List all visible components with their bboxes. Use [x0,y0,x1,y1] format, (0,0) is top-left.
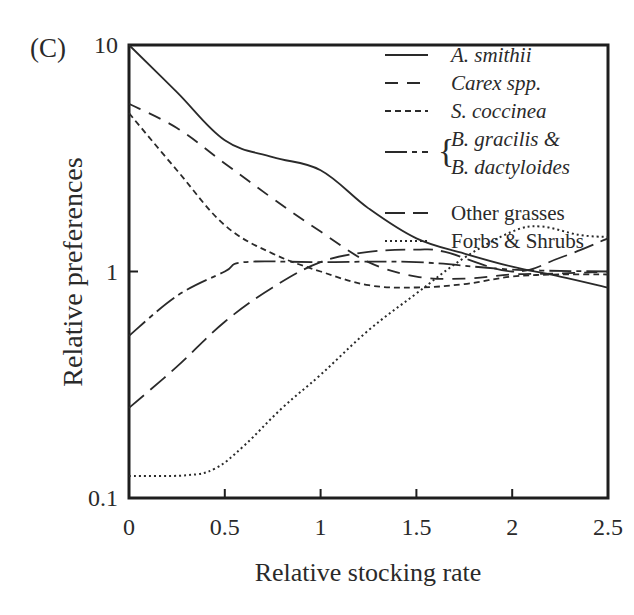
y-tick-label: 1 [106,259,118,285]
legend-label-carex-spp: Carex spp. [451,71,541,95]
x-axis-label: Relative stocking rate [255,558,482,587]
line-chart: 00.511.522.5 0.1110 (C) Relative stockin… [0,0,634,615]
legend-label-b-dactyloides: B. dactyloides [451,155,570,179]
series-forbs-shrubs-line [129,226,608,476]
legend-label-b-gracilis: B. gracilis & [451,127,561,151]
panel-label: (C) [30,33,66,63]
y-tick-label: 0.1 [88,485,118,511]
x-tick-label: 2 [506,514,518,540]
x-tick-label: 0 [123,514,135,540]
legend-label-s-coccinea: S. coccinea [451,99,547,123]
series-other-grasses-line [129,238,608,407]
x-tick-label: 0.5 [210,514,240,540]
legend: A. smithiiCarex spp.S. coccinea{B. graci… [385,43,584,253]
x-tick-label: 1 [315,514,327,540]
x-tick-label: 1.5 [401,514,431,540]
legend-label-other-grasses: Other grasses [451,201,565,225]
legend-label-forbs-shrubs: Forbs & Shrubs [451,229,584,253]
y-axis-label: Relative preferences [57,157,88,386]
x-tick-label: 2.5 [593,514,623,540]
legend-label-a-smithii: A. smithii [449,43,532,67]
y-tick-label: 10 [94,32,118,58]
